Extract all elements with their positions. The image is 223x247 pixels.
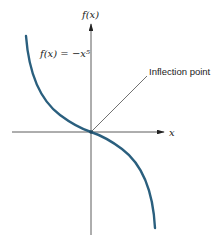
function-graph: f(x) x f(x) = −x⁵ Inflection point bbox=[0, 0, 223, 247]
inflection-point-marker bbox=[89, 130, 93, 134]
function-label: f(x) = −x⁵ bbox=[39, 48, 90, 59]
annotation-leader-line bbox=[91, 76, 147, 132]
x-axis-label: x bbox=[169, 127, 175, 138]
y-axis-label: f(x) bbox=[81, 9, 99, 20]
inflection-point-label: Inflection point bbox=[149, 66, 211, 77]
